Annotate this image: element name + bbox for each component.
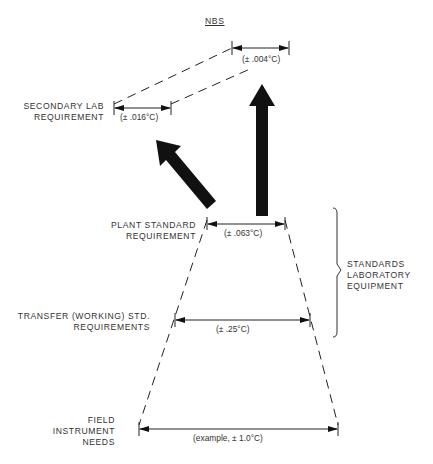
up-arrow-icon xyxy=(249,84,275,216)
label-standards-lab-equipment: STANDARDS LABORATORY EQUIPMENT xyxy=(347,259,411,292)
label-line: REQUIREMENT xyxy=(111,231,196,242)
nbs-dimension xyxy=(232,41,289,55)
label-field: FIELD INSTRUMENT NEEDS xyxy=(53,415,115,448)
tolerance-transfer: (± .25°C) xyxy=(216,324,250,334)
label-line: REQUIREMENTS xyxy=(18,322,150,333)
label-line: SECONDARY LAB xyxy=(23,101,104,112)
label-line: TRANSFER (WORKING) STD. xyxy=(18,311,150,322)
tolerance-field: (example, ± 1.0°C) xyxy=(193,433,263,443)
label-line: REQUIREMENT xyxy=(23,112,104,123)
label-transfer: TRANSFER (WORKING) STD. REQUIREMENTS xyxy=(18,311,150,333)
nbs-title: NBS xyxy=(205,16,224,26)
label-line: STANDARDS xyxy=(347,259,411,270)
tolerance-secondary-lab: (± .016°C) xyxy=(120,112,158,122)
label-secondary-lab: SECONDARY LAB REQUIREMENT xyxy=(23,101,104,123)
label-line: NEEDS xyxy=(53,437,115,448)
label-line: LABORATORY xyxy=(347,270,411,281)
label-plant-standard: PLANT STANDARD REQUIREMENT xyxy=(111,220,196,242)
tolerance-nbs: (± .004°C) xyxy=(242,54,280,64)
diagonal-arrow-icon xyxy=(156,140,216,209)
label-line: FIELD xyxy=(53,415,115,426)
tolerance-plant-standard: (± .063°C) xyxy=(224,228,262,238)
label-line: INSTRUMENT xyxy=(53,426,115,437)
diagram-canvas xyxy=(0,0,433,464)
label-line: EQUIPMENT xyxy=(347,281,411,292)
bracket-icon xyxy=(333,208,341,337)
label-line: PLANT STANDARD xyxy=(111,220,196,231)
